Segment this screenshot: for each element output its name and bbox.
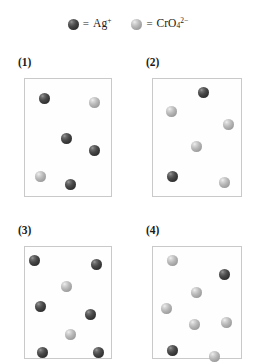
light-sphere-icon xyxy=(131,19,142,30)
diagram-panel-1: (1) xyxy=(18,57,118,199)
diagram-panel-3: (3) xyxy=(18,225,118,359)
dark-sphere-icon xyxy=(35,301,46,312)
legend-equals-sign: = xyxy=(83,18,89,30)
light-sphere-icon xyxy=(161,303,172,314)
light-sphere-icon xyxy=(189,319,200,330)
legend-label-silver-ion: Ag+ xyxy=(93,17,111,30)
panel-container-box xyxy=(24,78,112,197)
panel-label: (2) xyxy=(146,57,159,69)
dark-sphere-icon xyxy=(93,347,104,358)
light-sphere-icon xyxy=(221,317,232,328)
dark-sphere-icon xyxy=(85,309,96,320)
dark-sphere-icon xyxy=(39,93,50,104)
dark-sphere-icon xyxy=(198,87,209,98)
dark-sphere-icon xyxy=(219,269,230,280)
panel-label: (3) xyxy=(18,225,31,237)
diagram-panel-4: (4) xyxy=(146,225,246,359)
light-sphere-icon xyxy=(209,351,220,362)
dark-sphere-icon xyxy=(29,255,40,266)
dark-sphere-icon xyxy=(91,259,102,270)
light-sphere-icon xyxy=(166,106,177,117)
light-sphere-icon xyxy=(65,329,76,340)
panel-label: (1) xyxy=(18,57,31,69)
dark-sphere-icon xyxy=(37,347,48,358)
legend: = Ag+ = CrO42− xyxy=(0,14,256,34)
legend-entry-silver-ion: = Ag+ xyxy=(68,14,112,34)
panel-container-box xyxy=(152,78,242,197)
legend-label-chromate-ion: CrO42− xyxy=(157,17,189,31)
light-sphere-icon xyxy=(61,281,72,292)
dark-sphere-icon xyxy=(89,145,100,156)
light-sphere-icon xyxy=(219,177,230,188)
panel-label: (4) xyxy=(146,225,159,237)
panel-container-box xyxy=(24,246,112,359)
legend-entry-chromate-ion: = CrO42− xyxy=(131,14,188,34)
legend-equals-sign: = xyxy=(146,18,152,30)
dark-sphere-icon xyxy=(68,19,79,30)
panel-container-box xyxy=(152,246,242,359)
light-sphere-icon xyxy=(191,287,202,298)
dark-sphere-icon xyxy=(65,179,76,190)
dark-sphere-icon xyxy=(167,171,178,182)
light-sphere-icon xyxy=(89,97,100,108)
light-sphere-icon xyxy=(35,171,46,182)
light-sphere-icon xyxy=(223,119,234,130)
light-sphere-icon xyxy=(191,141,202,152)
dark-sphere-icon xyxy=(167,345,178,356)
dark-sphere-icon xyxy=(61,133,72,144)
diagram-panel-2: (2) xyxy=(146,57,246,199)
light-sphere-icon xyxy=(167,255,178,266)
